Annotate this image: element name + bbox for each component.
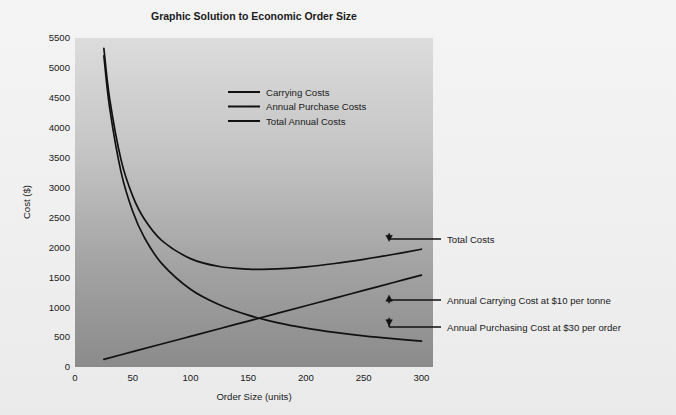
x-tick-label: 150 — [240, 372, 256, 383]
x-tick-label: 300 — [413, 372, 429, 383]
x-tick-label: 200 — [298, 372, 314, 383]
y-axis-tick-labels: 0500100015002000250030003500400045005000… — [49, 32, 70, 372]
x-axis-title: Order Size (units) — [216, 391, 291, 402]
x-tick-label: 100 — [182, 372, 198, 383]
chart-title: Graphic Solution to Economic Order Size — [151, 10, 357, 22]
x-axis-tick-labels: 050100150200250300 — [72, 372, 429, 383]
legend-label: Carrying Costs — [266, 87, 330, 98]
y-tick-label: 1000 — [49, 302, 70, 313]
y-tick-label: 5000 — [49, 62, 70, 73]
y-tick-label: 2000 — [49, 242, 70, 253]
y-tick-label: 3500 — [49, 152, 70, 163]
x-tick-label: 0 — [72, 372, 77, 383]
legend-label: Annual Purchase Costs — [266, 101, 366, 112]
annotation-label: Annual Carrying Cost at $10 per tonne — [447, 295, 611, 306]
y-tick-label: 4500 — [49, 92, 70, 103]
annotation-label: Annual Purchasing Cost at $30 per order — [447, 322, 622, 333]
y-axis-title: Cost ($) — [21, 185, 32, 219]
y-tick-label: 3000 — [49, 182, 70, 193]
annotation-label: Total Costs — [447, 234, 495, 245]
y-tick-label: 2500 — [49, 212, 70, 223]
y-tick-label: 4000 — [49, 122, 70, 133]
x-tick-label: 250 — [356, 372, 372, 383]
x-tick-label: 50 — [127, 372, 138, 383]
chart-figure: Graphic Solution to Economic Order Size … — [0, 0, 676, 415]
economic-order-size-chart: Graphic Solution to Economic Order Size … — [0, 0, 676, 415]
y-tick-label: 0 — [65, 361, 70, 372]
legend-label: Total Annual Costs — [266, 116, 346, 127]
y-tick-label: 500 — [54, 331, 70, 342]
y-tick-label: 1500 — [49, 272, 70, 283]
y-tick-label: 5500 — [49, 32, 70, 43]
